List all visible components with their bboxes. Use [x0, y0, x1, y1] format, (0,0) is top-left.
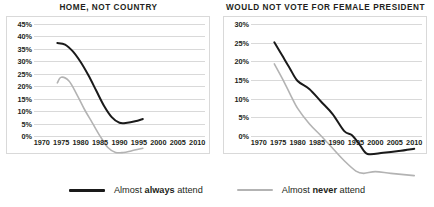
- x-tick-label: 1990: [111, 138, 127, 147]
- y-tick-label: 35%: [0, 44, 32, 53]
- x-tick-label: 1985: [92, 138, 108, 147]
- x-tick-label: 1995: [348, 138, 364, 147]
- x-tick-label: 1975: [270, 138, 286, 147]
- x-tick-label: 1995: [131, 138, 147, 147]
- chart-panel-home-not-country: HOME, NOT COUNTRY 0%5%10%15%20%25%30%35%…: [0, 0, 217, 172]
- x-axis-labels-left: 197019751980198519901995200020052010: [34, 138, 205, 150]
- y-tick-label: 10%: [209, 94, 249, 103]
- series-line: [274, 64, 414, 176]
- plot-canvas-left: [34, 24, 205, 136]
- x-tick-label: 2010: [189, 138, 205, 147]
- y-tick-label: 20%: [209, 57, 249, 66]
- y-tick-label: 20%: [0, 82, 32, 91]
- y-tick-label: 40%: [0, 32, 32, 41]
- x-tick-label: 2000: [367, 138, 383, 147]
- chart-title-left: HOME, NOT COUNTRY: [0, 0, 217, 13]
- x-tick-label: 2005: [170, 138, 186, 147]
- x-tick-label: 1975: [53, 138, 69, 147]
- charts-row: HOME, NOT COUNTRY 0%5%10%15%20%25%30%35%…: [0, 0, 434, 172]
- legend-line-icon: [69, 189, 105, 192]
- figure-container: HOME, NOT COUNTRY 0%5%10%15%20%25%30%35%…: [0, 0, 434, 207]
- y-tick-label: 0%: [209, 132, 249, 141]
- series-lines-left: [34, 24, 205, 195]
- y-tick-label: 15%: [0, 94, 32, 103]
- y-tick-label: 5%: [0, 119, 32, 128]
- y-tick-label: 25%: [0, 69, 32, 78]
- chart-legend: Almost always attendAlmost never attend: [0, 176, 434, 204]
- y-tick-label: 0%: [0, 132, 32, 141]
- x-tick-label: 1970: [34, 138, 50, 147]
- chart-panel-female-president: WOULD NOT VOTE FOR FEMALE PRESIDENT 0%5%…: [217, 0, 434, 172]
- x-tick-label: 2000: [150, 138, 166, 147]
- series-lines-right: [251, 24, 422, 195]
- x-axis-labels-right: 197019751980198519901995200020052010: [251, 138, 422, 150]
- y-tick-label: 10%: [0, 107, 32, 116]
- x-tick-label: 1990: [328, 138, 344, 147]
- legend-item-almost-always-attend[interactable]: Almost always attend: [69, 185, 203, 195]
- legend-label: Almost always attend: [114, 185, 203, 195]
- y-tick-label: 45%: [0, 20, 32, 29]
- legend-label: Almost never attend: [282, 185, 365, 195]
- legend-item-almost-never-attend[interactable]: Almost never attend: [237, 185, 365, 195]
- legend-line-icon: [237, 189, 273, 191]
- y-tick-label: 5%: [209, 113, 249, 122]
- x-tick-label: 1980: [73, 138, 89, 147]
- chart-title-right: WOULD NOT VOTE FOR FEMALE PRESIDENT: [217, 0, 434, 13]
- plot-area-right: 0%5%10%15%20%25%30% 19701975198019851990…: [223, 16, 427, 154]
- y-tick-label: 25%: [209, 38, 249, 47]
- x-tick-label: 1980: [290, 138, 306, 147]
- x-tick-label: 1970: [251, 138, 267, 147]
- y-tick-label: 30%: [0, 57, 32, 66]
- plot-canvas-right: [251, 24, 422, 136]
- x-tick-label: 2005: [387, 138, 403, 147]
- x-tick-label: 2010: [406, 138, 422, 147]
- y-tick-label: 15%: [209, 76, 249, 85]
- plot-area-left: 0%5%10%15%20%25%30%35%40%45% 19701975198…: [6, 16, 210, 154]
- x-tick-label: 1985: [309, 138, 325, 147]
- y-tick-label: 30%: [209, 20, 249, 29]
